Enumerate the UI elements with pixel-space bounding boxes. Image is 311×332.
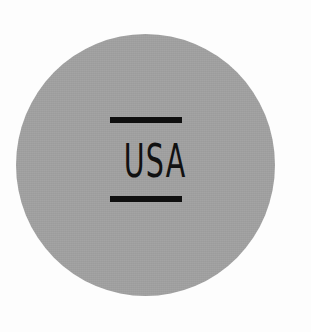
badge-label: USA xyxy=(124,136,169,186)
top-rule xyxy=(110,117,182,123)
bottom-rule xyxy=(110,196,182,202)
